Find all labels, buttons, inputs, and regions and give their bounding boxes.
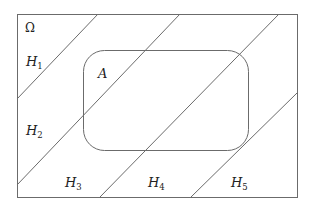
region-label-h4: H4 bbox=[147, 175, 165, 192]
partition-line-3 bbox=[100, 14, 279, 197]
partition-lines bbox=[17, 14, 297, 197]
partition-line-2 bbox=[17, 14, 180, 185]
region-label-h5: H5 bbox=[230, 175, 248, 192]
partition-diagram: Ω A H1H2H3H4H5 bbox=[0, 0, 312, 213]
event-a-label: A bbox=[97, 66, 107, 81]
universe-omega-box bbox=[18, 15, 298, 198]
region-label-h2: H2 bbox=[25, 123, 43, 140]
omega-label: Ω bbox=[25, 21, 35, 35]
region-label-h1: H1 bbox=[25, 54, 43, 71]
region-labels: H1H2H3H4H5 bbox=[25, 54, 248, 192]
event-a-rounded-box bbox=[84, 51, 249, 151]
region-label-h3: H3 bbox=[64, 175, 82, 192]
